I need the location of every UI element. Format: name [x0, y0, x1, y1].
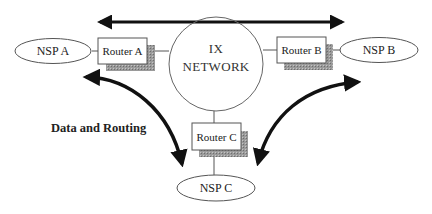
router-b: Router B	[277, 37, 333, 70]
nsp-b-label: NSP B	[363, 43, 396, 57]
router-b-label: Router B	[281, 44, 321, 56]
ix-network-label-line2: NETWORK	[182, 59, 249, 74]
router-c-label: Router C	[196, 131, 236, 143]
nsp-b: NSP B	[340, 38, 418, 63]
ix-network-diagram: IX NETWORK Router A Router B Router C NS…	[0, 0, 432, 214]
right-curved-arrow	[258, 82, 358, 163]
router-a: Router A	[98, 38, 155, 71]
nsp-a: NSP A	[15, 39, 91, 64]
nsp-a-label: NSP A	[37, 44, 70, 58]
router-a-label: Router A	[102, 45, 142, 57]
ix-network-label-line1: IX	[209, 41, 224, 56]
nsp-c-label: NSP C	[200, 181, 233, 195]
ix-network-hub: IX NETWORK	[169, 17, 263, 111]
nsp-c: NSP C	[177, 175, 255, 201]
data-and-routing-caption: Data and Routing	[51, 121, 147, 135]
router-c: Router C	[192, 123, 248, 157]
